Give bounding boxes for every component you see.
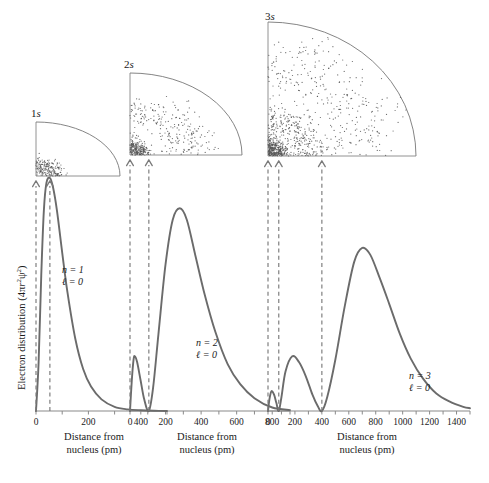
electron-dot: [172, 142, 173, 143]
electron-dot: [293, 64, 294, 65]
electron-dot: [298, 53, 299, 54]
electron-dot: [286, 125, 287, 126]
electron-dot: [133, 120, 134, 121]
electron-dot: [280, 87, 281, 88]
electron-dot: [269, 98, 270, 99]
electron-dot: [183, 149, 184, 150]
electron-dot: [350, 133, 351, 134]
electron-dot: [285, 147, 286, 148]
electron-dot: [140, 110, 141, 111]
electron-dot: [147, 129, 148, 130]
electron-dot: [322, 146, 323, 147]
electron-dot: [184, 123, 185, 124]
electron-dot: [282, 124, 283, 125]
electron-dot: [283, 47, 284, 48]
electron-dot: [299, 127, 300, 128]
electron-dot: [39, 168, 40, 169]
electron-dot: [280, 52, 281, 53]
arrow-head-icon: [265, 161, 272, 167]
electron-dot: [282, 107, 283, 108]
electron-dot: [331, 103, 332, 104]
electron-dot: [346, 94, 347, 95]
electron-dot: [48, 161, 49, 162]
electron-dot: [48, 163, 49, 164]
electron-dot: [190, 138, 191, 139]
electron-dot: [179, 118, 180, 119]
electron-dot: [276, 140, 277, 141]
electron-dot: [196, 142, 197, 143]
electron-dot: [140, 146, 141, 147]
electron-dot: [186, 119, 187, 120]
electron-dot: [330, 139, 331, 140]
electron-dot: [274, 115, 275, 116]
electron-dot: [304, 128, 305, 129]
electron-dot: [304, 153, 305, 154]
electron-dot: [179, 134, 180, 135]
electron-dot: [274, 152, 275, 153]
electron-dot: [290, 146, 291, 147]
electron-dot: [146, 148, 147, 149]
electron-dot: [142, 124, 143, 125]
electron-dot: [293, 116, 294, 117]
electron-dot: [275, 138, 276, 139]
electron-dot: [308, 155, 309, 156]
electron-dot: [130, 117, 131, 118]
electron-dot: [314, 81, 315, 82]
electron-dot: [293, 152, 294, 153]
electron-dot: [277, 128, 278, 129]
electron-dot: [377, 131, 378, 132]
electron-dot: [40, 160, 41, 161]
electron-dot: [300, 130, 301, 131]
electron-dot: [367, 140, 368, 141]
electron-dot: [169, 136, 170, 137]
electron-dot: [299, 138, 300, 139]
electron-dot: [272, 115, 273, 116]
electron-dot: [348, 152, 349, 153]
curve-plot1-1s: [36, 178, 167, 411]
electron-dot: [38, 158, 39, 159]
electron-dot: [144, 154, 145, 155]
electron-dot: [317, 102, 318, 103]
electron-dot: [51, 173, 52, 174]
electron-dot: [57, 173, 58, 174]
electron-dot: [51, 174, 52, 175]
electron-dot: [335, 94, 336, 95]
electron-dot: [39, 162, 40, 163]
electron-dot: [272, 129, 273, 130]
electron-dot: [313, 151, 314, 152]
electron-dot: [276, 125, 277, 126]
electron-dot: [187, 112, 188, 113]
electron-dot: [59, 162, 60, 163]
electron-dot: [129, 144, 130, 145]
electron-dot: [349, 77, 350, 78]
electron-dot: [191, 134, 192, 135]
electron-dot: [358, 106, 359, 107]
electron-dot: [271, 65, 272, 66]
electron-dot: [140, 118, 141, 119]
electron-dot: [148, 150, 149, 151]
electron-dot: [397, 103, 398, 104]
electron-dot: [297, 141, 298, 142]
electron-dot: [65, 174, 66, 175]
electron-dot: [284, 111, 285, 112]
electron-dot: [177, 138, 178, 139]
electron-dot: [307, 72, 308, 73]
electron-dot: [360, 131, 361, 132]
electron-dot: [188, 149, 189, 150]
electron-dot: [275, 118, 276, 119]
electron-dot: [314, 67, 315, 68]
electron-dot: [212, 135, 213, 136]
electron-dot: [214, 147, 215, 148]
electron-dot: [46, 164, 47, 165]
electron-dot: [291, 70, 292, 71]
electron-dot: [139, 141, 140, 142]
electron-dot: [295, 121, 296, 122]
electron-dot: [50, 175, 51, 176]
electron-dot: [193, 132, 194, 133]
electron-dot: [339, 144, 340, 145]
electron-dot: [271, 125, 272, 126]
electron-dot: [339, 142, 340, 143]
electron-dot: [286, 153, 287, 154]
electron-dot: [318, 45, 319, 46]
electron-dot: [291, 117, 292, 118]
